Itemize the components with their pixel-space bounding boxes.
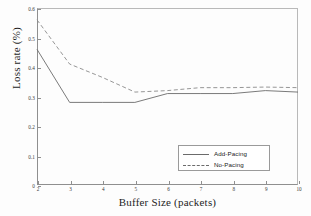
y-tick-mark xyxy=(38,9,41,10)
x-tick-label: 3 xyxy=(69,184,72,192)
legend-item-add-pacing: Add-Pacing xyxy=(179,148,269,159)
legend-line-solid-icon xyxy=(183,151,209,157)
x-tick-label: 7 xyxy=(200,184,203,192)
x-tick-label: 5 xyxy=(135,184,138,192)
x-tick-label: 9 xyxy=(265,184,268,192)
legend-item-no-pacing: No-Pacing xyxy=(179,159,269,170)
legend-line-dashed-icon xyxy=(183,162,209,168)
x-tick-mark xyxy=(234,181,235,184)
y-tick-mark xyxy=(38,98,41,99)
x-axis-label: Buffer Size (packets) xyxy=(37,196,298,208)
y-tick-label: 0.2 xyxy=(28,124,38,130)
y-tick-label: 0.5 xyxy=(28,36,38,42)
y-tick-mark xyxy=(38,127,41,128)
y-tick-mark xyxy=(38,68,41,69)
x-tick-label: 10 xyxy=(296,184,301,192)
x-tick-mark xyxy=(299,181,300,184)
x-tick-mark xyxy=(136,181,137,184)
x-tick-label: 8 xyxy=(232,184,235,192)
y-tick-label: 0.1 xyxy=(28,154,38,160)
y-axis-label: Loss rate (%) xyxy=(10,0,22,118)
x-tick-label: 6 xyxy=(167,184,170,192)
x-tick-mark xyxy=(38,181,39,184)
x-tick-mark xyxy=(169,181,170,184)
legend-label-add-pacing: Add-Pacing xyxy=(209,150,247,157)
legend-label-no-pacing: No-Pacing xyxy=(209,161,244,168)
x-tick-mark xyxy=(103,181,104,184)
x-tick-mark xyxy=(266,181,267,184)
chart-figure: Loss rate (%) 00.10.20.30.40.50.6 234567… xyxy=(0,0,311,216)
x-tick-label: 2 xyxy=(37,184,40,192)
y-tick-label: 0.4 xyxy=(28,65,38,71)
y-tick-mark xyxy=(38,39,41,40)
legend-box: Add-Pacing No-Pacing xyxy=(178,145,270,171)
x-tick-mark xyxy=(71,181,72,184)
x-tick-label: 4 xyxy=(102,184,105,192)
x-tick-mark xyxy=(201,181,202,184)
y-tick-label: 0.3 xyxy=(28,95,38,101)
y-tick-label: 0.6 xyxy=(28,6,38,12)
y-tick-mark xyxy=(38,157,41,158)
